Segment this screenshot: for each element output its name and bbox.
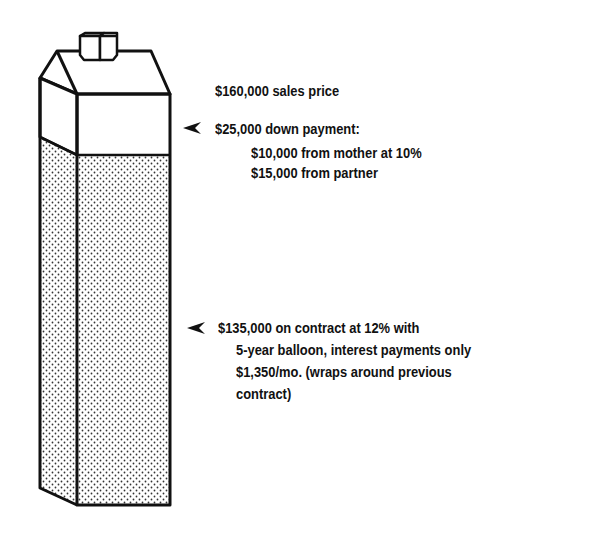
arrowhead-left-icon	[183, 122, 201, 134]
contract-line-2: 5-year balloon, interest payments only	[236, 340, 471, 359]
down-payment-line-2: $15,000 from partner	[251, 163, 378, 182]
contract-segment	[40, 137, 170, 505]
arrowhead-left-icon	[187, 322, 205, 334]
contract-line-4: contract)	[236, 384, 291, 403]
contract-line-1: $135,000 on contract at 12% with	[218, 318, 419, 337]
chimney	[80, 33, 117, 60]
contract-line-3: $1,350/mo. (wraps around previous	[236, 362, 452, 381]
down-payment-line-1: $10,000 from mother at 10%	[251, 143, 422, 162]
sales-price-label: $160,000 sales price	[215, 81, 339, 100]
down-payment-title: $25,000 down payment:	[215, 119, 360, 138]
